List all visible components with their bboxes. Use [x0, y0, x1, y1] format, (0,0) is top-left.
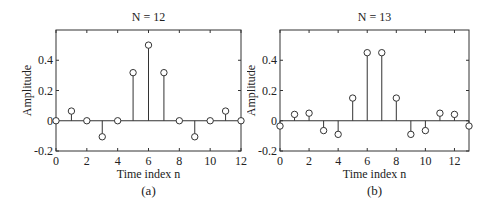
y-tick-label: -0.2 — [34, 144, 53, 158]
stem-marker — [114, 118, 120, 124]
chart-title: N = 12 — [132, 10, 165, 24]
x-tick-label: 6 — [146, 154, 152, 168]
stem-marker — [408, 131, 414, 137]
x-tick-label: 2 — [84, 154, 90, 168]
x-axis-label: Time index n — [117, 167, 181, 181]
y-axis-label: Amplitude — [247, 65, 258, 116]
x-tick-label: 12 — [235, 154, 247, 168]
stem-marker — [68, 108, 74, 114]
stem-marker — [53, 118, 59, 124]
stem-marker — [161, 69, 167, 75]
stem-marker — [207, 118, 213, 124]
stem-marker — [451, 111, 457, 117]
x-tick-label: 4 — [115, 154, 121, 168]
stem-marker — [379, 49, 385, 55]
y-tick-label: 0.4 — [38, 53, 53, 67]
stem-marker — [349, 95, 355, 101]
stem-marker — [192, 134, 198, 140]
stem-marker — [130, 69, 136, 75]
y-tick-label: 0.4 — [262, 53, 277, 67]
x-tick-label: 2 — [306, 154, 312, 168]
y-axis-label: Amplitude — [20, 65, 34, 116]
x-axis-label: Time index n — [343, 167, 407, 181]
x-tick-label: 6 — [364, 154, 370, 168]
subfigure-caption: (a) — [141, 183, 155, 198]
stem-marker — [222, 108, 228, 114]
x-tick-label: 0 — [277, 154, 283, 168]
x-tick-label: 8 — [176, 154, 182, 168]
stem-marker — [277, 123, 283, 129]
stem-marker — [437, 110, 443, 116]
x-tick-label: 10 — [204, 154, 216, 168]
stem-marker — [393, 95, 399, 101]
stem-marker — [364, 49, 370, 55]
subfigure-caption: (b) — [367, 183, 382, 198]
stem-marker — [335, 131, 341, 137]
x-tick-label: 12 — [448, 154, 460, 168]
x-tick-label: 8 — [393, 154, 399, 168]
stem-marker — [145, 42, 151, 48]
stem-marker — [99, 134, 105, 140]
stem-marker — [306, 110, 312, 116]
y-tick-label: 0.2 — [38, 84, 53, 98]
stem-marker — [320, 127, 326, 133]
x-tick-label: 4 — [335, 154, 341, 168]
chart-title: N = 13 — [358, 10, 391, 24]
stem-marker — [84, 118, 90, 124]
y-tick-label: 0.2 — [262, 84, 277, 98]
stem-marker — [176, 118, 182, 124]
stem-marker — [422, 127, 428, 133]
figure-a: 024681012-0.200.20.4N = 12Time index n(a… — [0, 0, 247, 207]
x-tick-label: 0 — [53, 154, 59, 168]
y-tick-label: 0 — [271, 114, 277, 128]
y-tick-label: -0.2 — [258, 144, 277, 158]
stem-marker — [466, 123, 472, 129]
stem-marker — [238, 118, 244, 124]
x-tick-label: 10 — [419, 154, 431, 168]
figure-b: 024681012-0.200.20.4N = 13Time index n(b… — [247, 0, 494, 207]
y-tick-label: 0 — [47, 114, 53, 128]
stem-marker — [291, 111, 297, 117]
axes-box — [280, 30, 469, 151]
